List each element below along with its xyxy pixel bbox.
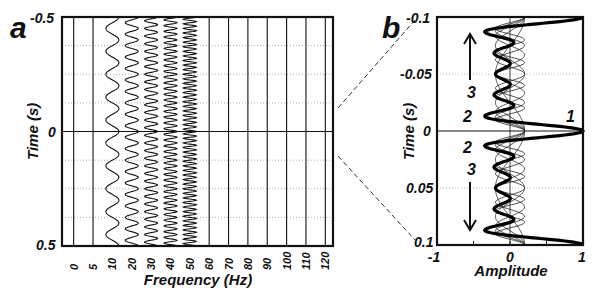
panel-a-plot <box>62 17 333 246</box>
x-tick-1-b: -1 <box>428 249 441 265</box>
panel-b-plot <box>437 17 583 245</box>
annotation-3-top: 3 <box>467 84 476 101</box>
x-ticks-a: 05102030405060708090100110120 <box>68 251 332 271</box>
x-axis-label-a: Frequency (Hz) <box>144 271 252 288</box>
zoom-connector-top <box>338 20 415 108</box>
svg-text:10: 10 <box>106 257 118 270</box>
svg-text:5: 5 <box>87 263 99 270</box>
x-tick-3-b: 1 <box>578 249 586 265</box>
panel-a-letter: a <box>10 11 27 44</box>
svg-text:70: 70 <box>223 257 235 270</box>
arrow-up-icon <box>464 34 476 80</box>
y-tick-2-b: -0.05 <box>400 66 432 82</box>
y-axis-label-b: Time (s) <box>400 103 417 160</box>
svg-text:80: 80 <box>242 257 254 270</box>
y-tick-5-b: 0.1 <box>414 234 434 250</box>
arrow-down-icon <box>464 182 476 230</box>
y-tick-bottom-a: 0.5 <box>36 237 56 253</box>
y-tick-top-a: -0.5 <box>30 10 54 26</box>
panel-b-letter: b <box>382 11 400 44</box>
annotation-3-bottom: 3 <box>467 161 476 178</box>
svg-text:40: 40 <box>164 257 176 271</box>
y-axis-label-a: Time (s) <box>24 103 41 160</box>
svg-text:30: 30 <box>145 257 157 270</box>
svg-text:120: 120 <box>319 251 331 270</box>
annotation-1: 1 <box>566 108 575 125</box>
y-tick-1-b: -0.1 <box>406 10 430 26</box>
y-tick-4-b: 0.05 <box>406 180 433 196</box>
svg-text:100: 100 <box>281 251 293 270</box>
y-tick-3-b: 0 <box>423 123 431 139</box>
svg-text:110: 110 <box>300 252 312 270</box>
svg-text:0: 0 <box>68 263 80 270</box>
x-axis-label-b: Amplitude <box>473 262 547 279</box>
figure: a -0.5 0 0.5 Time (s) 051020304050607080… <box>0 0 595 292</box>
svg-text:20: 20 <box>126 257 138 271</box>
y-tick-mid-a: 0 <box>48 124 56 140</box>
svg-text:60: 60 <box>203 257 215 270</box>
zoom-connector-bottom <box>338 156 415 240</box>
annotation-2-top: 2 <box>462 108 472 125</box>
svg-text:50: 50 <box>184 257 196 270</box>
svg-text:90: 90 <box>261 257 273 270</box>
annotation-2-bottom: 2 <box>462 139 472 156</box>
